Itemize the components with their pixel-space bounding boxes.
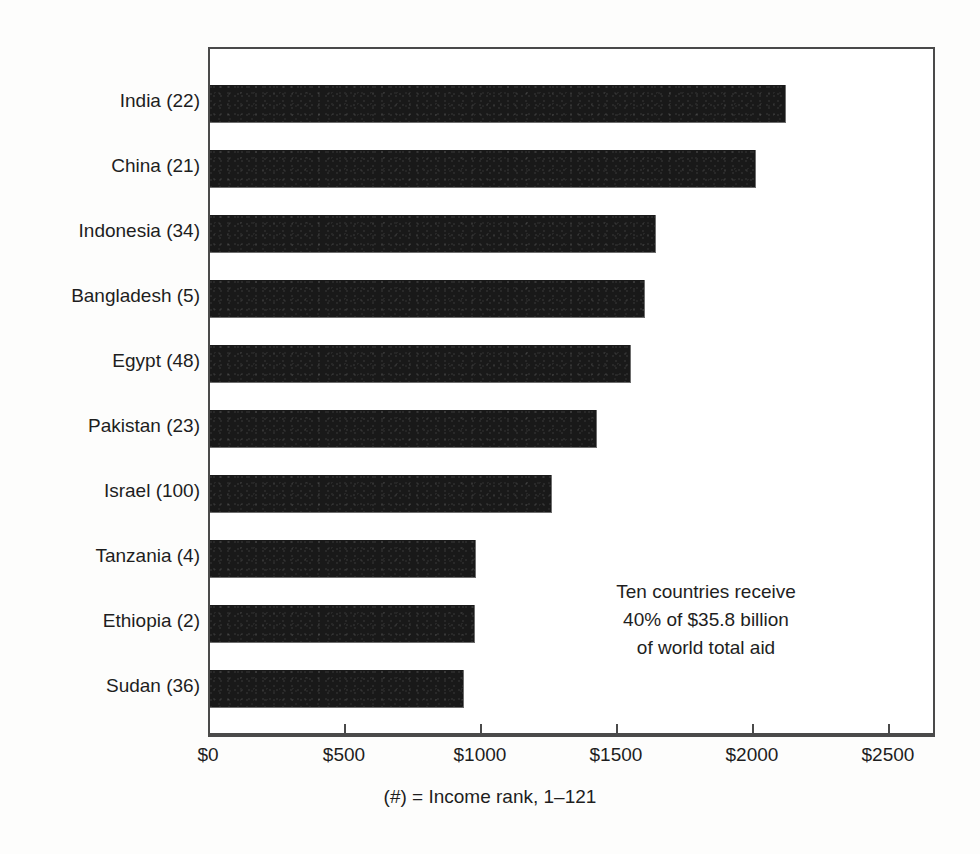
x-axis-tick bbox=[752, 724, 754, 737]
category-label: India (22) bbox=[4, 91, 200, 111]
x-axis-tick-label: $2500 bbox=[862, 744, 915, 766]
x-axis-tick-label: $1500 bbox=[590, 744, 643, 766]
bar bbox=[210, 670, 464, 708]
annotation-line: Ten countries receive bbox=[556, 578, 856, 606]
category-label: China (21) bbox=[4, 156, 200, 176]
x-axis-tick-label: $0 bbox=[197, 744, 218, 766]
category-label: Israel (100) bbox=[4, 481, 200, 501]
category-label: Pakistan (23) bbox=[4, 416, 200, 436]
x-axis-line bbox=[208, 735, 935, 737]
bar bbox=[210, 475, 552, 513]
category-label: Bangladesh (5) bbox=[4, 286, 200, 306]
bar bbox=[210, 85, 786, 123]
bar bbox=[210, 540, 476, 578]
chart-annotation: Ten countries receive 40% of $35.8 billi… bbox=[556, 578, 856, 662]
x-axis-tick bbox=[888, 724, 890, 737]
x-axis-tick bbox=[616, 724, 618, 737]
bar bbox=[210, 345, 631, 383]
aid-bar-chart-figure: India (22) China (21) Indonesia (34) Ban… bbox=[0, 0, 980, 854]
category-label: Ethiopia (2) bbox=[4, 611, 200, 631]
category-label: Indonesia (34) bbox=[4, 221, 200, 241]
x-axis-tick-label: $1000 bbox=[454, 744, 507, 766]
x-axis-tick bbox=[344, 724, 346, 737]
category-label: Tanzania (4) bbox=[4, 546, 200, 566]
bar bbox=[210, 410, 597, 448]
annotation-line: of world total aid bbox=[556, 634, 856, 662]
category-label: Sudan (36) bbox=[4, 676, 200, 696]
annotation-line: 40% of $35.8 billion bbox=[556, 606, 856, 634]
chart-caption: (#) = Income rank, 1–121 bbox=[0, 786, 980, 808]
bar bbox=[210, 215, 656, 253]
x-axis-tick-label: $500 bbox=[323, 744, 365, 766]
bar bbox=[210, 150, 756, 188]
category-label: Egypt (48) bbox=[4, 351, 200, 371]
bar bbox=[210, 605, 475, 643]
category-axis-labels: India (22) China (21) Indonesia (34) Ban… bbox=[0, 47, 200, 735]
bar bbox=[210, 280, 645, 318]
x-axis-tick bbox=[480, 724, 482, 737]
x-axis-tick-label: $2000 bbox=[726, 744, 779, 766]
